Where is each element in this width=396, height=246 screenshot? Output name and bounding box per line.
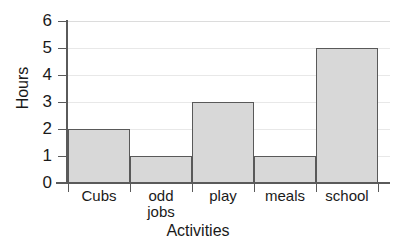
- y-tick-label-6: 6: [32, 12, 52, 29]
- bar-odd-jobs: [130, 156, 192, 183]
- x-tick-label-line: play: [209, 187, 237, 204]
- gridline-y-6: [68, 21, 390, 22]
- bar-school: [316, 48, 378, 183]
- x-tick-label-school: school: [316, 188, 378, 204]
- x-axis-line: [56, 182, 390, 184]
- x-tick-label-line: odd: [148, 187, 173, 204]
- x-tick-label-meals: meals: [254, 188, 316, 204]
- y-tick-mark-2: [58, 129, 67, 130]
- y-tick-label-4: 4: [32, 66, 52, 83]
- x-axis-title: Activities: [0, 222, 396, 239]
- y-tick-label-3: 3: [32, 93, 52, 110]
- x-tick-label-line: school: [325, 187, 368, 204]
- y-axis-title: Hours: [15, 53, 31, 123]
- y-tick-mark-5: [58, 48, 67, 49]
- x-tick-label-line: Cubs: [81, 187, 116, 204]
- y-tick-label-0: 0: [32, 174, 52, 191]
- x-tick-label-line: jobs: [130, 204, 192, 220]
- bar-Cubs: [68, 129, 130, 183]
- y-tick-mark-1: [58, 156, 67, 157]
- x-tick-label-odd-jobs: oddjobs: [130, 188, 192, 220]
- x-tick-label-Cubs: Cubs: [68, 188, 130, 204]
- y-tick-mark-3: [58, 102, 67, 103]
- bar-chart-figure: 0123456 Cubsoddjobsplaymealsschool Hours…: [0, 0, 396, 246]
- y-tick-label-5: 5: [32, 39, 52, 56]
- x-tick-label-line: meals: [265, 187, 305, 204]
- y-tick-mark-4: [58, 75, 67, 76]
- bar-play: [192, 102, 254, 183]
- y-tick-mark-6: [58, 21, 67, 22]
- x-tick-label-play: play: [192, 188, 254, 204]
- bar-meals: [254, 156, 316, 183]
- x-tick-mark-5: [378, 184, 379, 192]
- y-tick-label-1: 1: [32, 147, 52, 164]
- y-tick-label-2: 2: [32, 120, 52, 137]
